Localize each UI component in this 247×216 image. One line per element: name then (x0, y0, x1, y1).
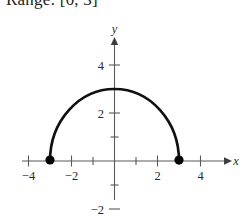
figure-container: Range: [0, 3] −4 −2 2 4 4 (0, 0, 247, 215)
y-axis-arrow-icon (111, 37, 118, 45)
x-tick-label-neg4: −4 (22, 169, 36, 183)
x-tick-label-neg2: −2 (65, 169, 78, 183)
y-tick-label-4: 4 (98, 59, 105, 73)
endpoint-dot-right (174, 155, 183, 164)
x-tick-label-2: 2 (154, 169, 160, 183)
x-tick-label-4: 4 (197, 169, 204, 183)
semicircle-plot: −4 −2 2 4 4 2 −2 x y (0, 0, 247, 215)
y-axis-label: y (110, 22, 118, 36)
y-tick-label-neg2: −2 (91, 203, 104, 216)
y-tick-label-2: 2 (98, 107, 104, 121)
endpoint-dot-left (45, 155, 54, 164)
x-axis-label: x (232, 154, 239, 168)
x-axis-arrow-icon (224, 157, 232, 164)
